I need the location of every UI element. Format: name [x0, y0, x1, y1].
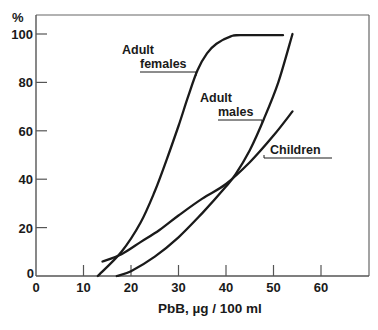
x-axis-title: PbB, µg / 100 ml — [158, 301, 262, 316]
label-adult-males: Adult males — [200, 91, 262, 124]
curves — [98, 34, 293, 276]
x-tick-label: 30 — [171, 280, 185, 295]
y-tick-label: 60 — [19, 124, 33, 139]
x-tick-label: 50 — [266, 280, 280, 295]
y-tick-label: 20 — [19, 221, 33, 236]
y-axis-ticks: 020406080100 — [11, 27, 47, 281]
x-tick-label: 40 — [219, 280, 233, 295]
y-unit-label: % — [12, 10, 24, 25]
x-tick-label: 0 — [32, 280, 39, 295]
females-label-line1: Adult — [122, 43, 155, 57]
males-label-line1: Adult — [200, 91, 233, 105]
x-tick-label: 20 — [124, 280, 138, 295]
x-tick-label: 10 — [76, 280, 90, 295]
label-adult-females: Adult females — [122, 43, 196, 76]
children-label: Children — [270, 143, 321, 157]
males-label-line2: males — [218, 105, 253, 119]
label-children: Children — [264, 143, 332, 158]
y-tick-label: 0 — [27, 266, 34, 281]
x-axis-ticks: 0102030405060 — [32, 265, 328, 295]
x-tick-label: 60 — [314, 280, 328, 295]
dose-response-chart: 020406080100 0102030405060 % Adult femal… — [0, 0, 378, 330]
y-tick-label: 100 — [11, 27, 33, 42]
y-tick-label: 80 — [19, 75, 33, 90]
y-tick-label: 40 — [19, 172, 33, 187]
females-label-line2: females — [140, 57, 187, 71]
